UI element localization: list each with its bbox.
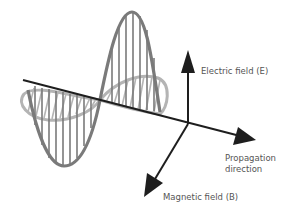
magnetic-field-axis <box>152 124 188 184</box>
propagation-label-line1: Propagation <box>225 153 276 164</box>
em-wave-diagram <box>0 0 286 219</box>
electric-arrow-icon <box>181 50 195 73</box>
electric-field-label: Electric field (E) <box>201 66 268 77</box>
propagation-label-line2: direction <box>225 164 276 175</box>
magnetic-arrow-icon <box>144 173 163 197</box>
propagation-direction-label: Propagation direction <box>225 153 276 175</box>
electric-wave <box>28 12 160 166</box>
propagation-arrow-icon <box>233 127 256 145</box>
magnetic-field-label: Magnetic field (B) <box>163 192 238 203</box>
